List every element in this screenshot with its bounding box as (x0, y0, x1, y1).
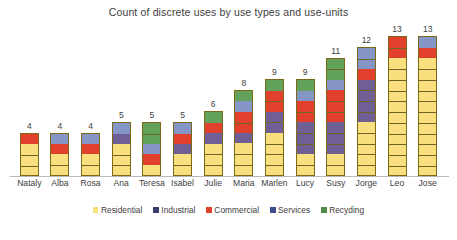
bar-column[interactable]: 4 (45, 24, 76, 176)
bar-value-label: 4 (88, 122, 93, 131)
bar-segment[interactable] (358, 48, 375, 69)
bar-column[interactable]: 9 (259, 24, 290, 176)
unit-gridline (419, 101, 436, 102)
x-axis-line (10, 176, 449, 177)
bar-segment[interactable] (358, 122, 375, 175)
unit-gridline (205, 165, 222, 166)
unit-gridline (143, 134, 160, 135)
bar-segment[interactable] (174, 144, 191, 154)
bar-segment[interactable] (21, 134, 38, 144)
legend-label: Industrial (161, 205, 195, 215)
bar-column[interactable]: 6 (198, 24, 229, 176)
bar-segment[interactable] (297, 91, 314, 102)
bar-segment[interactable] (82, 154, 99, 175)
bar-segment[interactable] (358, 69, 375, 80)
bar-segment[interactable] (235, 112, 252, 133)
bar-segment[interactable] (51, 154, 68, 175)
bar-segment[interactable] (174, 154, 191, 175)
bar-segment[interactable] (82, 144, 99, 154)
bar-column[interactable]: 5 (106, 24, 137, 176)
legend-item[interactable]: Industrial (153, 205, 195, 215)
unit-gridline (266, 122, 283, 123)
bar-segment[interactable] (174, 134, 191, 144)
legend-item[interactable]: Services (270, 205, 310, 215)
bar-column[interactable]: 4 (14, 24, 45, 176)
unit-gridline (389, 80, 406, 81)
bar-segment[interactable] (327, 90, 344, 122)
bar-segment[interactable] (266, 133, 283, 175)
bar-segment[interactable] (297, 154, 314, 175)
bar-segment[interactable] (327, 80, 344, 91)
legend-item[interactable]: Recyding (321, 205, 364, 215)
bar-segment[interactable] (327, 59, 344, 80)
bar-stack[interactable] (20, 133, 39, 176)
bar-stack[interactable] (142, 122, 161, 176)
bar-stack[interactable] (265, 79, 284, 176)
bar-segment[interactable] (297, 122, 314, 154)
bar-column[interactable]: 13 (382, 24, 413, 176)
bar-segment[interactable] (113, 123, 130, 133)
bar-segment[interactable] (174, 123, 191, 133)
bar-segment[interactable] (266, 80, 283, 91)
bar-segment[interactable] (205, 112, 222, 122)
bar-stack[interactable] (173, 122, 192, 176)
unit-gridline (358, 59, 375, 60)
bar-segment[interactable] (143, 123, 160, 144)
bar-stack[interactable] (112, 122, 131, 176)
bar-segment[interactable] (205, 133, 222, 143)
bar-column[interactable]: 5 (167, 24, 198, 176)
legend-item[interactable]: Residential (93, 205, 142, 215)
bar-stack[interactable] (296, 79, 315, 176)
bar-stack[interactable] (50, 133, 69, 176)
bar-value-label: 5 (180, 111, 185, 120)
bar-segment[interactable] (235, 101, 252, 112)
bar-column[interactable]: 12 (351, 24, 382, 176)
bar-column[interactable]: 8 (228, 24, 259, 176)
bar-segment[interactable] (143, 144, 160, 154)
bar-segment[interactable] (235, 133, 252, 144)
bar-stack[interactable] (81, 133, 100, 176)
bar-segment[interactable] (143, 154, 160, 164)
bar-segment[interactable] (113, 144, 130, 175)
bar-segment[interactable] (419, 58, 436, 175)
bar-segment[interactable] (205, 144, 222, 175)
bar-stack[interactable] (326, 58, 345, 176)
bar-segment[interactable] (21, 144, 38, 175)
bar-segment[interactable] (266, 112, 283, 133)
bar-segment[interactable] (389, 37, 406, 58)
bar-segment[interactable] (358, 80, 375, 122)
bar-segment[interactable] (266, 91, 283, 112)
bar-column[interactable]: 9 (290, 24, 321, 176)
bar-stack[interactable] (204, 111, 223, 176)
bar-column[interactable]: 11 (320, 24, 351, 176)
bar-segment[interactable] (113, 134, 130, 144)
bar-segment[interactable] (205, 123, 222, 133)
bar-segment[interactable] (327, 154, 344, 175)
bar-stack[interactable] (234, 90, 253, 176)
bar-column[interactable]: 5 (137, 24, 168, 176)
chart-legend: ResidentialIndustrialCommercialServicesR… (0, 205, 457, 215)
bar-stack[interactable] (388, 36, 407, 176)
unit-gridline (358, 90, 375, 91)
bar-segment[interactable] (419, 48, 436, 59)
bar-value-label: 4 (27, 122, 32, 131)
unit-gridline (205, 154, 222, 155)
bar-column[interactable]: 13 (412, 24, 443, 176)
bar-segment[interactable] (297, 80, 314, 91)
x-axis-tick-label: Lucy (290, 178, 321, 188)
bar-segment[interactable] (143, 165, 160, 175)
bar-segment[interactable] (297, 101, 314, 122)
legend-label: Recyding (329, 205, 364, 215)
bar-segment[interactable] (235, 143, 252, 175)
bar-segment[interactable] (51, 134, 68, 144)
bar-column[interactable]: 4 (75, 24, 106, 176)
bar-stack[interactable] (418, 36, 437, 176)
legend-item[interactable]: Commercial (206, 205, 259, 215)
bar-segment[interactable] (235, 91, 252, 102)
bar-segment[interactable] (82, 134, 99, 144)
bar-stack[interactable] (357, 47, 376, 176)
bar-segment[interactable] (389, 58, 406, 175)
bar-segment[interactable] (419, 37, 436, 48)
bar-segment[interactable] (51, 144, 68, 154)
bar-segment[interactable] (327, 122, 344, 154)
